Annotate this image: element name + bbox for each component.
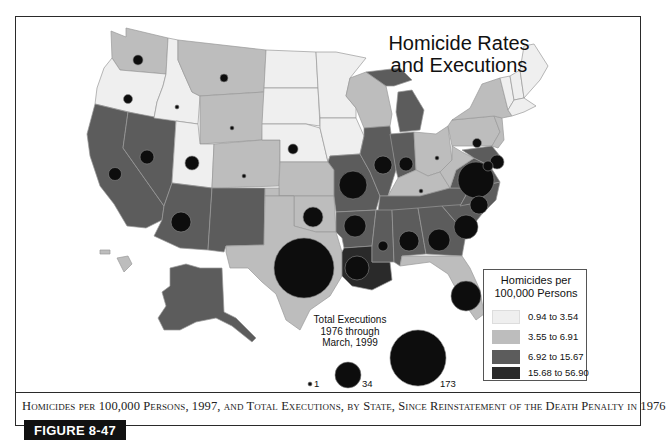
legend-swatch	[492, 330, 520, 344]
bubble-id	[175, 105, 179, 109]
state-ks	[279, 162, 334, 196]
bubble-fl	[451, 281, 481, 311]
bubble-ga	[428, 229, 450, 251]
state-hi-islands	[100, 250, 110, 254]
state-nd	[264, 50, 318, 88]
state-mt	[178, 40, 266, 96]
bubble-al	[399, 231, 419, 251]
legend-swatch	[492, 310, 520, 324]
state-wa	[111, 28, 168, 74]
map-title: Homicide Rates and Executions	[364, 32, 554, 76]
state-ak	[158, 264, 256, 342]
homicide-legend: Homicides per 100,000 Persons 0.94 to 3.…	[483, 269, 587, 381]
state-co	[212, 140, 280, 188]
bubble-pa	[473, 139, 482, 148]
state-hi	[117, 256, 132, 272]
state-wy	[200, 92, 264, 144]
legend-label: 0.94 to 3.54	[528, 311, 578, 322]
exec-size-label-1: 1	[314, 378, 319, 389]
bubble-tx	[274, 238, 334, 298]
exec-title-line1: Total Executions	[300, 314, 400, 326]
legend-title-line1: Homicides per	[484, 274, 588, 287]
state-ms	[372, 210, 394, 262]
bubble-or	[124, 95, 133, 104]
figure-caption: Homicides per 100,000 Persons, 1997, and…	[22, 399, 666, 414]
state-nm	[208, 188, 265, 252]
legend-row-class4: 15.68 to 56.90	[492, 367, 584, 379]
bubble-md	[483, 161, 493, 171]
figure-number-label: FIGURE 8-47	[24, 420, 126, 440]
bubble-nv	[140, 150, 154, 164]
legend-swatch	[492, 350, 520, 364]
bubble-mo	[339, 171, 367, 199]
bubble-mt	[220, 74, 228, 82]
legend-bubble-34	[335, 362, 361, 388]
exec-title-line2: 1976 through	[300, 326, 400, 338]
map-title-line1: Homicide Rates	[364, 32, 554, 54]
legend-title: Homicides per 100,000 Persons	[484, 274, 588, 300]
bubble-oh	[435, 156, 439, 160]
state-sd	[262, 88, 320, 126]
bubble-ut	[185, 156, 199, 170]
state-mi-lower	[396, 90, 424, 132]
bubble-ca	[109, 168, 122, 181]
exec-title-line3: March, 1999	[300, 337, 400, 349]
bubble-ms	[378, 241, 388, 251]
bubble-ky	[419, 189, 423, 193]
bubble-nc	[470, 196, 488, 214]
bubble-az	[171, 212, 191, 232]
legend-label: 3.55 to 6.91	[528, 331, 578, 342]
legend-label: 6.92 to 15.67	[528, 351, 583, 362]
bubble-ok	[303, 207, 323, 227]
bubble-in	[399, 157, 413, 171]
exec-size-label-173: 173	[440, 378, 456, 389]
executions-legend-title: Total Executions 1976 through March, 199…	[300, 314, 400, 349]
bubble-wa	[133, 55, 143, 65]
legend-row-class2: 3.55 to 6.91	[492, 330, 584, 344]
caption-divider	[15, 392, 641, 393]
legend-row-class3: 6.92 to 15.67	[492, 350, 584, 364]
bubble-la	[345, 256, 369, 280]
bubble-ar	[344, 215, 366, 237]
legend-row-class1: 0.94 to 3.54	[492, 310, 584, 324]
legend-title-line2: 100,000 Persons	[484, 287, 588, 300]
legend-bubble-1	[308, 382, 312, 386]
bubble-sc	[454, 215, 478, 239]
bubble-ne	[288, 144, 298, 154]
bubble-wy	[230, 126, 234, 130]
legend-label: 15.68 to 56.90	[528, 367, 589, 378]
exec-size-label-34: 34	[362, 378, 373, 389]
legend-swatch	[492, 367, 520, 379]
bubble-il	[374, 156, 392, 174]
bubble-co	[242, 174, 246, 178]
map-title-line2: and Executions	[364, 54, 554, 76]
